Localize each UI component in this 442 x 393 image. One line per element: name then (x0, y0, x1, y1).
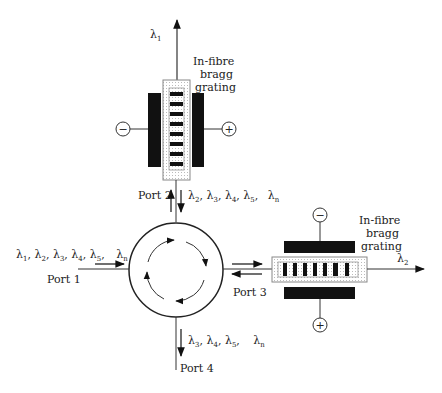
port2-link: Port 2 λ2, λ3, λ4, λ5, λn (138, 180, 280, 222)
top-grating-left-electrode (148, 93, 161, 167)
top-grating-assembly: λ1 In-fibre bragg grating − + (116, 20, 236, 180)
right-grating-label-1: In-fibre (359, 214, 400, 227)
port1: Port 1 λ1, λ2, λ3, λ4, λ5, λn (16, 248, 129, 286)
top-grating-right-electrode (192, 93, 204, 167)
top-grating-label-3: grating (195, 81, 236, 94)
port3-link: Port 3 (223, 264, 272, 299)
circulator-body (129, 223, 223, 317)
port4: Port 4 λ3, λ4, λ5, λn (176, 317, 265, 375)
port1-wavelengths: λ1, λ2, λ3, λ4, λ5, λn (16, 248, 128, 263)
circulator-fbg-diagram: λ1 In-fibre bragg grating − + (0, 0, 442, 393)
port4-wavelengths: λ3, λ4, λ5, λn (188, 334, 265, 349)
svg-text:+: + (224, 123, 233, 136)
port4-label: Port 4 (180, 362, 214, 375)
right-grating-label-3: grating (361, 240, 402, 253)
lambda1-label: λ1 (150, 28, 161, 43)
diagram-canvas: λ1 In-fibre bragg grating − + (0, 0, 442, 393)
right-grating-top-electrode (284, 241, 355, 253)
svg-text:−: − (315, 209, 324, 222)
circulator (129, 223, 223, 317)
top-grating-label-2: bragg (200, 68, 233, 81)
right-grating-assembly: − + In-fibre bragg grating λ2 (272, 208, 424, 332)
lambda2-label: λ2 (397, 252, 408, 267)
svg-text:−: − (118, 123, 127, 136)
port1-label: Port 1 (47, 273, 81, 286)
svg-text:+: + (315, 319, 324, 332)
port3-label: Port 3 (233, 286, 267, 299)
top-grating-label-1: In-fibre (193, 55, 234, 68)
port2-label: Port 2 (138, 189, 172, 202)
right-grating-bottom-electrode (284, 287, 355, 299)
right-grating-label-2: bragg (366, 227, 399, 240)
port2-wavelengths: λ2, λ3, λ4, λ5, λn (188, 189, 280, 204)
